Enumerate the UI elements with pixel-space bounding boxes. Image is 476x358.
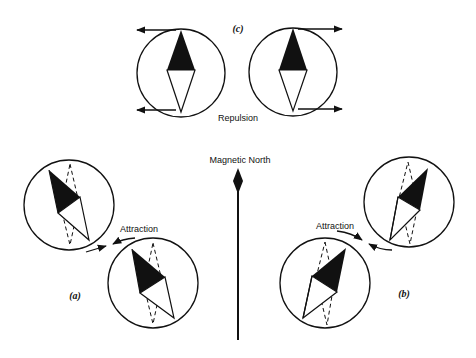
- attraction-arrow-b-1: [337, 231, 362, 240]
- compass-diagram: [0, 0, 476, 358]
- attraction-caption-b: Attraction: [316, 221, 354, 231]
- panel-label-a: (a): [69, 290, 81, 301]
- panel-label-c: (c): [232, 23, 243, 34]
- compass-b-upper: [364, 157, 454, 247]
- attraction-arrow-a-1: [86, 246, 106, 252]
- attraction-caption-a: Attraction: [120, 224, 158, 234]
- repulsion-caption: Repulsion: [218, 113, 258, 123]
- panel-label-b: (b): [398, 288, 410, 299]
- compass-c-right: [249, 28, 342, 116]
- compass-c-left: [137, 29, 225, 117]
- magnetic-north-arrow: [233, 168, 243, 340]
- compass-a-upper: [24, 160, 114, 250]
- compass-b-lower: [280, 238, 370, 328]
- magnetic-north-label: Magnetic North: [209, 155, 270, 165]
- compass-a-lower: [108, 238, 198, 328]
- attraction-arrow-b-2: [369, 244, 392, 250]
